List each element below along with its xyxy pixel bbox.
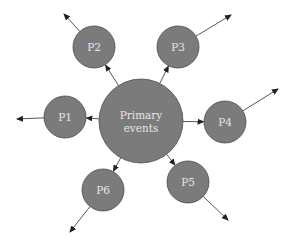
node-label: P4	[218, 116, 232, 128]
arrow-p2-outward	[64, 14, 80, 31]
node-p6: P6	[82, 169, 124, 211]
nodes-layer: Primary events P1P2P3P4P5P6	[44, 26, 246, 211]
center-label-line1: Primary	[120, 109, 163, 121]
node-p1: P1	[44, 96, 86, 138]
arrow-primary-to-p5	[167, 154, 175, 165]
node-label: P6	[96, 184, 110, 196]
arrow-primary-to-p3	[160, 66, 169, 83]
arrow-primary-to-p1	[86, 118, 99, 119]
node-p4: P4	[204, 101, 246, 143]
diagram-canvas: Primary events P1P2P3P4P5P6	[0, 0, 293, 242]
node-label: P2	[87, 41, 101, 53]
arrow-p3-outward	[196, 15, 231, 36]
node-p3: P3	[157, 26, 199, 68]
arrow-p6-outward	[70, 207, 90, 232]
center-label-line2: events	[124, 122, 159, 134]
node-label: P5	[181, 176, 195, 188]
node-label: P3	[171, 41, 185, 53]
node-p2: P2	[73, 26, 115, 68]
node-label: P1	[58, 111, 72, 123]
arrow-p4-outward	[243, 89, 278, 111]
arrow-p1-outward	[17, 118, 44, 119]
diagram-svg: Primary events P1P2P3P4P5P6	[0, 0, 293, 242]
node-p5: P5	[167, 161, 209, 203]
arrow-primary-to-p2	[106, 65, 119, 85]
arrow-primary-to-p6	[113, 158, 120, 171]
center-circle	[99, 79, 183, 163]
node-primary-events: Primary events	[99, 79, 183, 163]
arrow-p5-outward	[203, 196, 228, 220]
